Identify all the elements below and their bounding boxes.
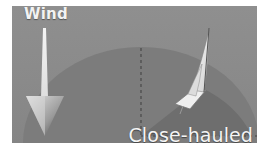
point-of-sail-label: Close-hauled: [128, 124, 253, 143]
point-of-sail-diagram: Wind Close-hauled: [12, 6, 257, 143]
wind-label: Wind: [24, 6, 68, 23]
diagram-graphics: [12, 6, 257, 143]
